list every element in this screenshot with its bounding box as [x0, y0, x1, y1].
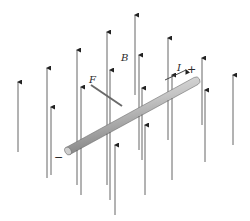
positive-terminal-label: +: [187, 63, 196, 76]
field-label-B: B: [120, 52, 128, 63]
conducting-rod: [63, 77, 200, 156]
force-label-F: F: [88, 74, 97, 85]
current-label-I: I: [176, 62, 182, 73]
negative-terminal-label: −: [54, 151, 63, 164]
magnetic-force-diagram: B F I + −: [0, 0, 250, 221]
magnetic-field-lines-front: [18, 58, 233, 215]
force-arrow: [91, 85, 122, 106]
